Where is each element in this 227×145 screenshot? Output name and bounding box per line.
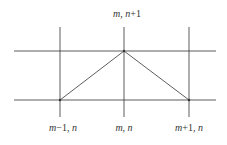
node-top: [123, 50, 125, 52]
node-bottom-right: [188, 99, 190, 101]
edge-left: [60, 51, 124, 100]
stencil-diagram: m, n+1 m−1, n m, n m+1, n: [0, 0, 227, 145]
edge-right: [124, 51, 189, 100]
label-bottom-left: m−1, n: [49, 122, 77, 133]
label-top: m, n+1: [113, 8, 141, 19]
node-bottom-left: [59, 99, 61, 101]
label-bottom-center: m, n: [115, 122, 132, 133]
label-bottom-right: m+1, n: [175, 122, 203, 133]
